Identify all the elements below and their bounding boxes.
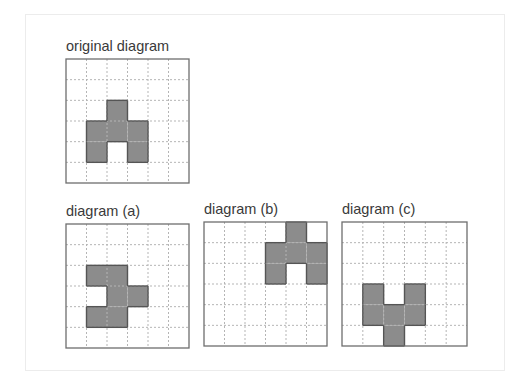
filled-cell	[363, 284, 384, 305]
filled-cell	[405, 305, 426, 326]
filled-cell	[266, 263, 287, 284]
filled-cell	[107, 307, 128, 328]
filled-cell	[107, 100, 128, 121]
filled-cell	[266, 243, 287, 264]
filled-cell	[307, 263, 328, 284]
filled-cell	[87, 265, 108, 286]
grid-diagram-c	[342, 222, 467, 346]
label-diagram-b: diagram (b)	[204, 201, 278, 217]
filled-cell	[128, 121, 149, 142]
filled-cell	[87, 121, 108, 142]
filled-cell	[87, 142, 108, 163]
grid-diagram-b	[204, 222, 327, 346]
filled-cell	[286, 222, 307, 243]
filled-cell	[286, 243, 307, 264]
filled-cell	[107, 121, 128, 142]
filled-cell	[128, 142, 149, 163]
filled-cell	[107, 286, 128, 307]
grid-diagram-a	[66, 224, 189, 348]
label-diagram-a: diagram (a)	[66, 203, 140, 219]
filled-cell	[384, 325, 405, 346]
label-diagram-c: diagram (c)	[342, 201, 415, 217]
filled-cell	[87, 307, 108, 328]
filled-cell	[405, 284, 426, 305]
filled-cell	[384, 305, 405, 326]
label-original: original diagram	[66, 38, 169, 54]
filled-cell	[307, 243, 328, 264]
grid-original	[66, 59, 189, 183]
filled-cell	[107, 265, 128, 286]
filled-cell	[363, 305, 384, 326]
filled-cell	[128, 286, 149, 307]
